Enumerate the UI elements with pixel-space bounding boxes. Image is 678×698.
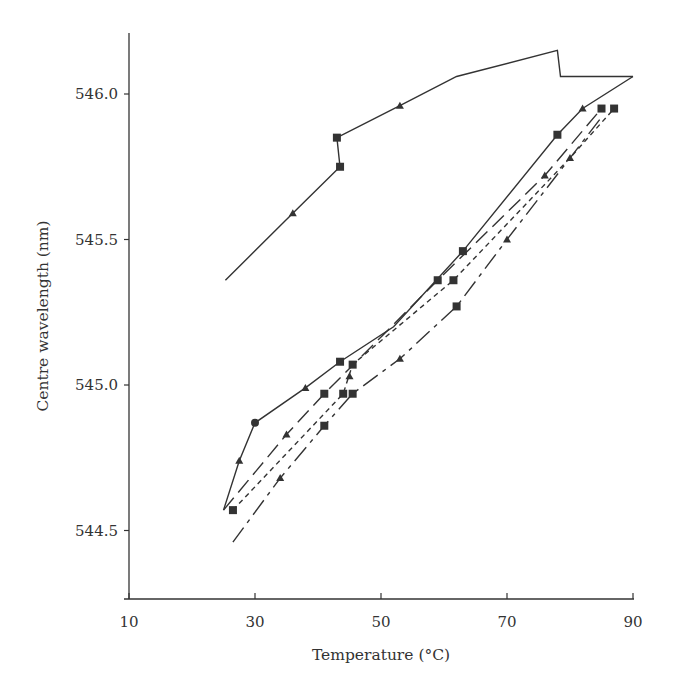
square-marker <box>333 134 341 142</box>
arrow-marker <box>579 105 587 112</box>
x-tick-label: 30 <box>245 613 264 631</box>
x-tick-label: 70 <box>497 613 516 631</box>
arrow-marker <box>235 457 243 464</box>
y-tick-label: 545.5 <box>75 231 118 249</box>
y-ticks: 544.5545.0545.5546.0 <box>75 85 129 540</box>
y-tick-label: 546.0 <box>75 85 118 103</box>
circle-marker <box>251 419 259 427</box>
square-marker <box>434 276 442 284</box>
series-cycle-3 <box>229 105 618 515</box>
series-line <box>224 77 634 511</box>
square-marker <box>320 390 328 398</box>
square-marker <box>610 105 618 113</box>
square-marker <box>349 390 357 398</box>
square-marker <box>598 105 606 113</box>
line-chart: 1030507090 544.5545.0545.5546.0 Temperat… <box>0 0 678 698</box>
square-marker <box>349 361 357 369</box>
square-marker <box>553 131 561 139</box>
series-cycle-4 <box>233 117 602 542</box>
plot-series <box>224 50 634 542</box>
x-tick-label: 90 <box>623 613 642 631</box>
y-tick-label: 544.5 <box>75 522 118 540</box>
series-line <box>225 50 633 280</box>
square-marker <box>320 422 328 430</box>
axes: 1030507090 544.5545.0545.5546.0 Temperat… <box>34 33 643 664</box>
series-line <box>233 117 602 542</box>
square-marker <box>336 163 344 171</box>
square-marker <box>459 247 467 255</box>
square-marker <box>229 506 237 514</box>
x-axis-title: Temperature (°C) <box>312 646 450 664</box>
y-tick-label: 545.0 <box>75 376 118 394</box>
square-marker <box>339 390 347 398</box>
series-cycle-1-heating <box>225 50 633 280</box>
square-marker <box>336 358 344 366</box>
series-line <box>233 109 614 511</box>
series-cycle-1-cooling <box>224 77 634 511</box>
arrow-marker <box>396 102 404 109</box>
x-tick-label: 50 <box>371 613 390 631</box>
square-marker <box>453 302 461 310</box>
arrow-marker <box>346 372 354 379</box>
x-tick-label: 10 <box>119 613 138 631</box>
square-marker <box>449 276 457 284</box>
series-cycle-2 <box>224 105 606 511</box>
y-axis-title: Centre wavelength (nm) <box>34 220 52 411</box>
series-line <box>224 109 602 511</box>
